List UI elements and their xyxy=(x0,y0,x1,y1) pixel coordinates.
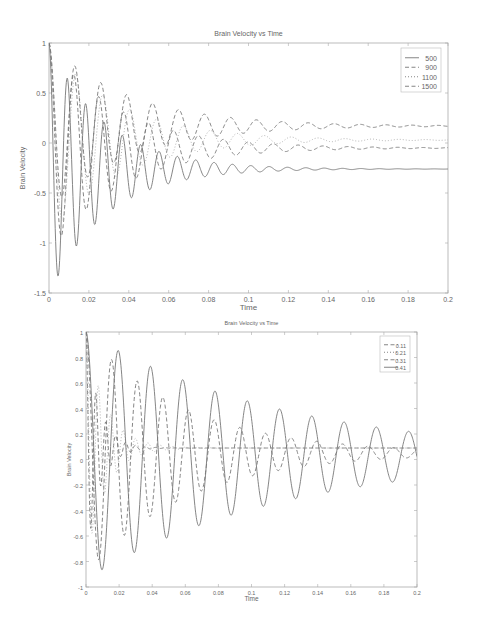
y-tick-label: 0 xyxy=(42,140,46,147)
series-line-500 xyxy=(49,43,448,276)
y-tick-label: 1 xyxy=(80,330,83,336)
x-tick-label: 0.08 xyxy=(202,296,216,303)
x-tick-label: 0.04 xyxy=(147,590,158,596)
x-tick-label: 0.14 xyxy=(321,296,335,303)
y-tick-label: -0.6 xyxy=(74,534,83,540)
legend-entry: 0.11 xyxy=(396,343,406,349)
chart-title: Brain Velocity vs Time xyxy=(225,320,279,326)
y-tick-label: 0.4 xyxy=(75,407,83,413)
y-tick-label: 0.8 xyxy=(75,356,83,362)
x-tick-label: 0.02 xyxy=(114,590,125,596)
legend-entry: 1100 xyxy=(422,74,437,81)
legend-entry: 1500 xyxy=(421,83,437,90)
y-tick-label: -0.5 xyxy=(34,190,46,197)
x-tick-label: 0 xyxy=(47,296,51,303)
x-tick-label: 0.1 xyxy=(244,296,254,303)
y-tick-label: -1 xyxy=(78,585,83,591)
chart-2-svg: Brain Velocity vs Time00.020.040.060.080… xyxy=(0,305,478,622)
chart-2: Brain Velocity vs Time00.020.040.060.080… xyxy=(0,305,478,622)
series-line-0_11 xyxy=(86,332,417,528)
x-tick-label: 0.12 xyxy=(279,590,290,596)
legend: 50090011001500 xyxy=(401,48,441,92)
y-axis-label: Brain Velocity xyxy=(66,443,72,477)
legend-entry: 500 xyxy=(425,55,437,62)
chart-title: Brain Velocity vs Time xyxy=(214,30,283,38)
chart-1: Brain Velocity vs Time00.020.040.060.080… xyxy=(0,0,478,312)
x-tick-label: 0.18 xyxy=(379,590,390,596)
x-tick-label: 0.04 xyxy=(122,296,136,303)
legend-entry: 900 xyxy=(425,64,437,71)
y-tick-label: -0.2 xyxy=(74,483,83,489)
y-tick-label: -1 xyxy=(40,240,46,247)
x-tick-label: 0.06 xyxy=(162,296,176,303)
series-line-0_31 xyxy=(86,332,417,560)
legend-entry: 0.21 xyxy=(395,350,406,356)
x-tick-label: 0.2 xyxy=(443,296,453,303)
x-tick-label: 0.08 xyxy=(213,590,224,596)
x-tick-label: 0.2 xyxy=(413,590,421,596)
legend-entry: 0.41 xyxy=(395,365,406,371)
series-line-0_41 xyxy=(86,332,417,570)
chart-1-svg: Brain Velocity vs Time00.020.040.060.080… xyxy=(0,0,478,312)
series-line-1100 xyxy=(49,43,448,220)
x-tick-label: 0.16 xyxy=(361,296,375,303)
x-axis-label: Time xyxy=(244,595,259,602)
x-tick-label: 0.14 xyxy=(312,590,323,596)
y-tick-label: -1.5 xyxy=(34,290,46,297)
y-tick-label: -0.8 xyxy=(74,560,83,566)
legend-entry: 0.31 xyxy=(395,358,406,364)
x-tick-label: 0.06 xyxy=(180,590,191,596)
series-line-0_21 xyxy=(86,332,417,533)
y-tick-label: -0.4 xyxy=(74,509,83,515)
y-tick-label: 0.6 xyxy=(75,381,83,387)
x-tick-label: 0 xyxy=(84,590,87,596)
y-tick-label: 0.5 xyxy=(36,90,46,97)
x-tick-label: 0.16 xyxy=(345,590,356,596)
series-line-900 xyxy=(49,43,448,236)
legend: 0.110.210.310.41 xyxy=(380,336,410,372)
x-tick-label: 0.02 xyxy=(82,296,96,303)
x-tick-label: 0.12 xyxy=(282,296,296,303)
y-tick-label: 0 xyxy=(80,458,83,464)
y-tick-label: 0.2 xyxy=(75,432,83,438)
y-axis-label: Brain Velocity xyxy=(19,146,27,189)
y-tick-label: 1 xyxy=(42,40,46,47)
x-tick-label: 0.18 xyxy=(401,296,415,303)
